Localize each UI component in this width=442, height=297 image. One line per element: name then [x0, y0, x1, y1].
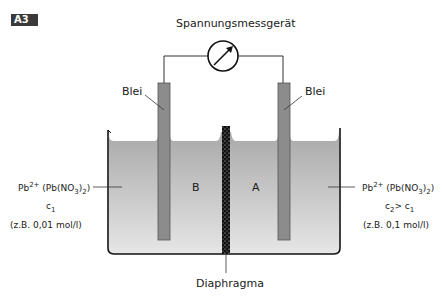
left-example-concentration: (z.B. 0,01 mol/l) [10, 220, 82, 230]
compartment-b-label: B [192, 181, 200, 194]
right-example-concentration: (z.B. 0,1 mol/l) [363, 220, 429, 230]
left-electrode-label: Blei [122, 85, 142, 98]
meter-label: Spannungsmessgerät [176, 17, 296, 30]
voltmeter-icon [208, 41, 238, 71]
diaphragm [222, 126, 230, 254]
left-concentration: c1 [46, 201, 55, 214]
concentration-cell-diagram [0, 0, 442, 297]
right-concentration: c2> c1 [385, 201, 414, 214]
right-solution-formula: Pb2+ (Pb(NO3)2) [362, 181, 434, 196]
right-electrode-label: Blei [305, 85, 325, 98]
diaphragm-label: Diaphragma [196, 277, 264, 290]
compartment-a-label: A [252, 181, 260, 194]
left-solution-formula: Pb2+ (Pb(NO3)2) [18, 181, 90, 196]
